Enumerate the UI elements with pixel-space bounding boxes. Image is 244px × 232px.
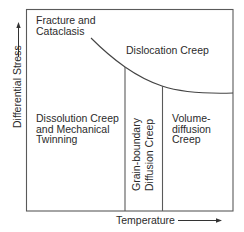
region-grain-boundary-diffusion-creep: Grain-boundary Diffusion Creep	[131, 118, 155, 191]
region-dislocation-creep: Dislocation Creep	[126, 45, 209, 56]
fracture-label-line1: Fracture and	[36, 15, 96, 26]
x-axis-label: Temperature	[116, 215, 175, 226]
grain-label-line2: Diffusion Creep	[144, 118, 155, 191]
volume-label-line1: Volume-	[172, 113, 211, 124]
dissolution-label-line1: Dissolution Creep	[36, 113, 119, 124]
y-axis-label: Differential Stress	[12, 45, 23, 128]
region-volume-diffusion-creep: Volume- diffusion Creep	[172, 113, 211, 145]
region-fracture-cataclasis: Fracture and Cataclasis	[36, 15, 96, 36]
y-axis-arrow-head	[16, 22, 20, 28]
fracture-label-line2: Cataclasis	[36, 26, 96, 37]
region-dissolution-creep: Dissolution Creep and Mechanical Twinnin…	[36, 113, 119, 145]
x-axis-arrow-head	[216, 218, 222, 222]
dislocation-label: Dislocation Creep	[126, 45, 209, 56]
grain-label-line1: Grain-boundary	[131, 118, 142, 191]
dissolution-label-line3: Twinning	[36, 134, 119, 145]
volume-label-line3: Creep	[172, 134, 211, 145]
y-axis-label-text: Differential Stress	[11, 45, 23, 128]
x-axis-label-text: Temperature	[116, 215, 175, 226]
